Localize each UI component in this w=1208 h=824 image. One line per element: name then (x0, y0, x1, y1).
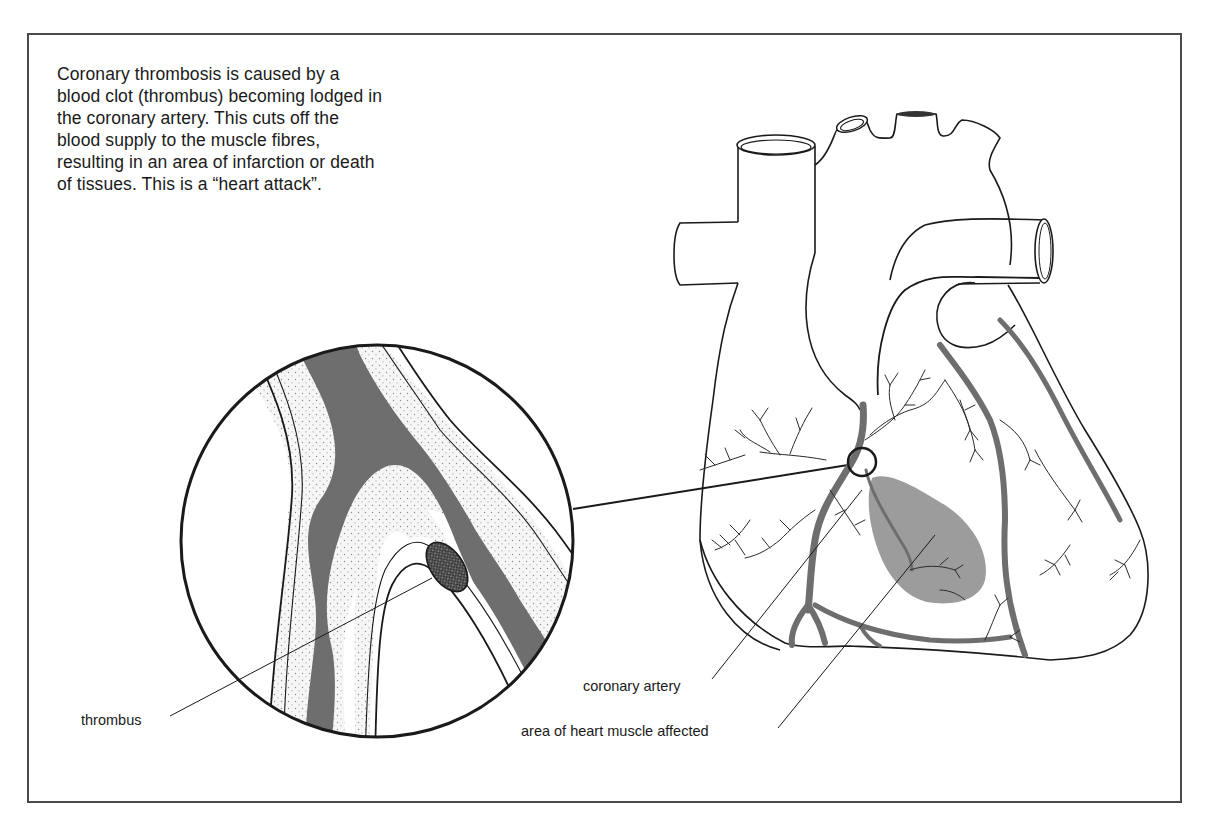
coronary-artery-label: coronary artery (583, 678, 681, 694)
heart-illustration (674, 111, 1148, 660)
magnified-artery-view (181, 330, 650, 760)
affected-area-label: area of heart muscle affected (521, 723, 709, 739)
thrombus-label: thrombus (81, 712, 141, 728)
coronary-artery-leader-line (712, 490, 862, 679)
coronary-thrombosis-illustration (0, 0, 1208, 824)
affected-area-leader-line (778, 535, 935, 728)
magnifier-connector-line (573, 465, 848, 509)
infarct-area (869, 476, 986, 603)
